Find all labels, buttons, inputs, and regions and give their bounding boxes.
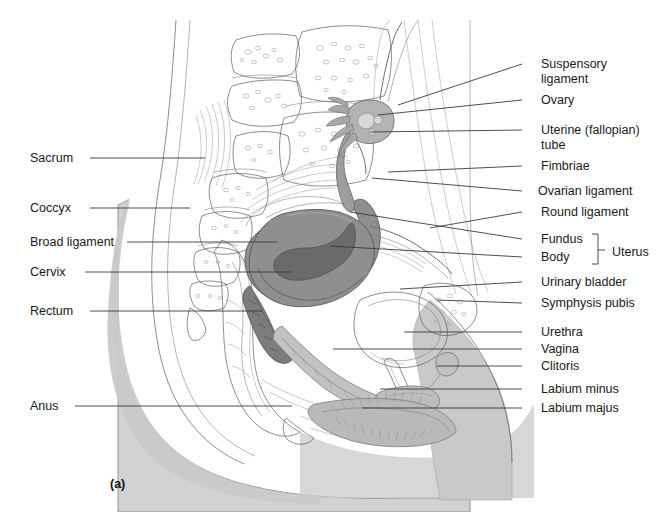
label-urethra: Urethra [541, 325, 583, 339]
label-uterine-tube: Uterine (fallopian) [541, 123, 640, 137]
label-ovary: Ovary [541, 93, 575, 107]
label-cervix: Cervix [30, 265, 66, 279]
label-coccyx: Coccyx [30, 201, 72, 215]
label-broad-ligament: Broad ligament [30, 235, 115, 249]
label-uterine-tube-line2: tube [541, 138, 565, 152]
label-symphysis-pubis: Symphysis pubis [541, 296, 635, 310]
label-ovarian-ligament: Ovarian ligament [538, 184, 633, 198]
label-body: Body [541, 250, 570, 264]
clitoris [436, 353, 458, 376]
anatomy-figure: SacrumCoccyxBroad ligamentCervixRectumAn… [0, 0, 665, 512]
label-suspensory-ligament-line2: ligament [541, 72, 589, 86]
label-rectum: Rectum [30, 304, 73, 318]
label-sacrum: Sacrum [30, 151, 73, 165]
label-fimbriae: Fimbriae [541, 159, 590, 173]
label-fundus: Fundus [541, 232, 583, 246]
label-urinary-bladder: Urinary bladder [541, 275, 626, 289]
label-labium-minus: Labium minus [541, 382, 619, 396]
uterus-bracket-label: Uterus [612, 245, 649, 259]
label-round-ligament: Round ligament [541, 205, 629, 219]
ovary-follicle-2 [374, 116, 382, 124]
figure-caption: (a) [110, 477, 125, 491]
label-suspensory-ligament: Suspensory [541, 57, 608, 71]
label-anus: Anus [30, 399, 59, 413]
label-labium-majus: Labium majus [541, 401, 619, 415]
label-clitoris: Clitoris [541, 359, 579, 373]
label-vagina: Vagina [541, 342, 579, 356]
